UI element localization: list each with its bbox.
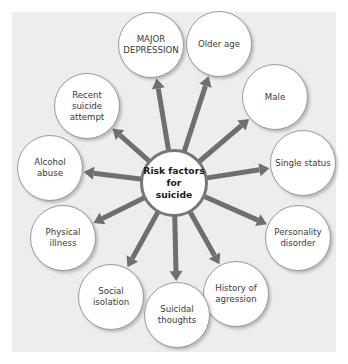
arrow-social-isolation [132, 211, 158, 258]
arrow-history-of-agression [190, 211, 215, 256]
node-label: History of agression [211, 283, 261, 305]
node-label: Suicidal thoughts [154, 304, 200, 326]
node-label: Personality disorder [270, 227, 325, 249]
node-label: Single status [271, 158, 335, 169]
node-label: Older age [194, 39, 244, 50]
node-major-depression: MAJOR DEPRESSION [118, 12, 184, 78]
arrow-male [198, 126, 241, 163]
node-label: Recent suicide attempt [66, 90, 109, 123]
arrowhead-icon [259, 163, 270, 176]
arrow-older-age [184, 86, 206, 153]
arrow-recent-suicide-attempt [120, 135, 150, 162]
arrow-alcohol-abuse [94, 173, 143, 179]
node-alcohol-abuse: Alcohol abuse [17, 135, 83, 201]
arrow-single-status [206, 170, 260, 178]
node-physical-illness: Physical illness [30, 205, 96, 271]
node-social-isolation: Social isolation [78, 264, 144, 330]
center-node-risk-factors: Risk factors for suicide [140, 149, 208, 217]
node-label: Male [261, 92, 289, 103]
node-suicidal-thoughts: Suicidal thoughts [144, 282, 210, 348]
node-label: Alcohol abuse [30, 157, 69, 179]
node-personality-disorder: Personality disorder [265, 205, 331, 271]
node-recent-suicide-attempt: Recent suicide attempt [54, 73, 120, 139]
node-male: Male [242, 64, 308, 130]
node-history-of-agression: History of agression [203, 261, 269, 327]
arrowhead-icon [170, 271, 183, 281]
node-older-age: Older age [186, 11, 252, 77]
arrow-physical-illness [102, 197, 145, 218]
node-label: Social isolation [89, 286, 133, 308]
node-label: MAJOR DEPRESSION [119, 34, 182, 56]
arrow-personality-disorder [203, 196, 258, 220]
node-single-status: Single status [270, 130, 336, 196]
arrowhead-icon [84, 167, 95, 180]
node-label: Physical illness [42, 227, 85, 249]
arrow-suicidal-thoughts [175, 215, 176, 271]
arrowhead-icon [152, 79, 165, 90]
center-label: Risk factors for suicide [143, 165, 204, 201]
arrow-major-depression [158, 88, 169, 151]
